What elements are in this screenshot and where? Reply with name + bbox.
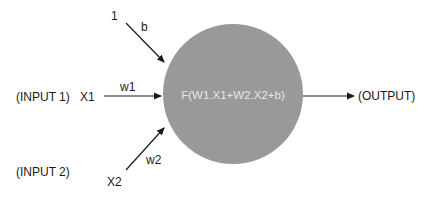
input2-label: (INPUT 2) (16, 166, 70, 178)
input1-weight-label: w1 (120, 81, 135, 93)
input2-weight-label: w2 (146, 154, 161, 166)
input1-variable: X1 (80, 91, 95, 103)
input1-label: (INPUT 1) (16, 91, 70, 103)
bias-input-label: 1 (111, 10, 118, 22)
input2-variable: X2 (107, 176, 122, 188)
output-label: (OUTPUT) (358, 90, 415, 102)
bias-weight-label: b (141, 21, 148, 33)
neuron-formula: F(W1.X1+W2.X2+b) (181, 90, 285, 102)
